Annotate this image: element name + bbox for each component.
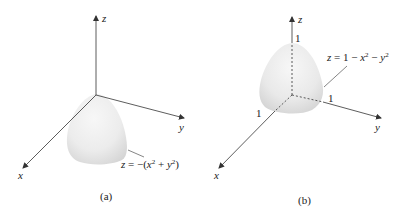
surface-label-b: z = 1 − x2 − y2 [326, 51, 389, 63]
paraboloid-surface-b [259, 43, 323, 114]
y-axis-label-b: y [374, 121, 380, 133]
caption-b: (b) [298, 194, 311, 207]
x-axis-label-a: x [17, 169, 23, 181]
x-axis-label-b: x [213, 169, 219, 181]
y-tick-label-b: 1 [328, 92, 334, 104]
z-axis-label-b: z [297, 13, 303, 25]
panel-a: z y x z = −(x2 + y2) (a) [17, 12, 184, 203]
z-axis-label-a: z [101, 12, 107, 24]
surface-label-a: z = −(x2 + y2) [120, 158, 179, 171]
figure-canvas: z y x z = −(x2 + y2) (a) z y x 1 1 1 z =… [0, 0, 416, 217]
y-axis-label-a: y [178, 121, 184, 133]
caption-a: (a) [100, 190, 113, 203]
x-axis-b [219, 111, 275, 168]
label-leader-b [324, 66, 347, 87]
label-leader-a [128, 150, 144, 157]
panel-b: z y x 1 1 1 z = 1 − x2 − y2 (b) [213, 13, 389, 207]
x-tick-label-b: 1 [256, 107, 262, 119]
z-tick-label-b: 1 [295, 32, 301, 44]
y-axis-b [323, 102, 381, 118]
paraboloid-surface-a [67, 94, 127, 164]
